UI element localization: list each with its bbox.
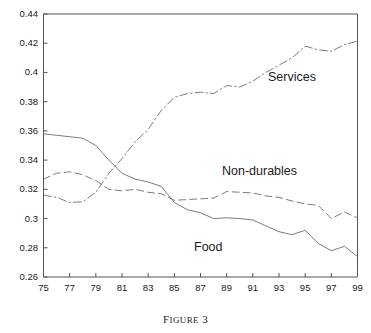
caption-igure: IGURE <box>169 315 199 325</box>
x-tick-label: 81 <box>108 282 136 293</box>
x-tick-label: 83 <box>134 282 162 293</box>
series-label-nondurables: Non-durables <box>222 164 297 178</box>
x-tick-label: 95 <box>291 282 319 293</box>
x-tick-label: 89 <box>213 282 241 293</box>
y-tick-label: 0.44 <box>0 8 38 19</box>
y-tick-label: 0.3 <box>0 213 38 224</box>
y-tick-label: 0.32 <box>0 183 38 194</box>
y-tick-label: 0.38 <box>0 96 38 107</box>
axis-lines <box>44 14 358 277</box>
series-label-food: Food <box>194 240 223 254</box>
x-tick-label: 97 <box>317 282 345 293</box>
y-tick-label: 0.42 <box>0 37 38 48</box>
x-tick-label: 75 <box>30 282 58 293</box>
y-tick-label: 0.34 <box>0 154 38 165</box>
x-tick-label: 91 <box>239 282 267 293</box>
y-tick-label: 0.36 <box>0 125 38 136</box>
series-line-non-durables <box>44 172 358 219</box>
y-tick-label: 0.4 <box>0 66 38 77</box>
x-tick-label: 93 <box>265 282 293 293</box>
x-tick-label: 87 <box>187 282 215 293</box>
caption-number: 3 <box>199 313 208 325</box>
figure-caption: FIGURE 3 <box>0 313 371 325</box>
y-tick-label: 0.28 <box>0 242 38 253</box>
figure-container: 0.260.280.30.320.340.360.380.40.420.44 7… <box>0 0 371 333</box>
series-label-services: Services <box>268 70 316 84</box>
series-line-food <box>44 134 358 257</box>
tick-marks <box>44 14 358 277</box>
x-tick-label: 99 <box>344 282 371 293</box>
x-tick-label: 77 <box>56 282 84 293</box>
x-tick-label: 79 <box>82 282 110 293</box>
x-tick-label: 85 <box>160 282 188 293</box>
y-tick-label: 0.26 <box>0 271 38 282</box>
